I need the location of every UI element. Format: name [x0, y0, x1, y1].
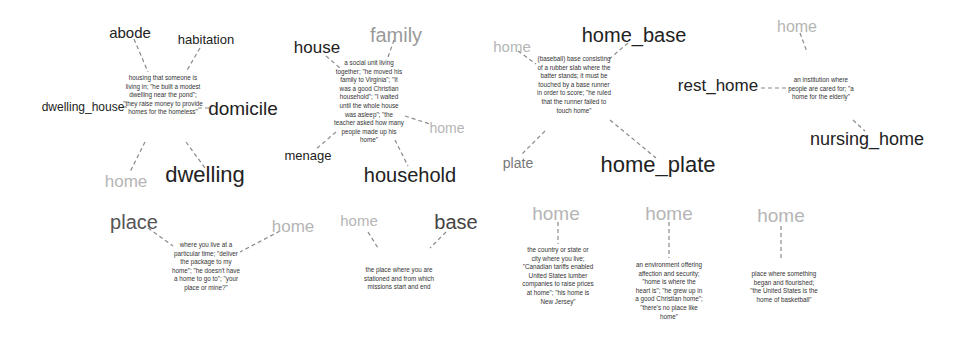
word-house[interactable]: house [294, 39, 340, 56]
gloss-base: the place where you are stationed and fr… [364, 266, 434, 292]
word-home[interactable]: home [757, 206, 805, 225]
gloss-place: where you live at a particular time; "de… [172, 241, 240, 293]
word-abode[interactable]: abode [109, 25, 151, 40]
gloss-dwelling: housing that someone is living in; "he b… [123, 74, 203, 117]
gloss-nursing-home: an institution where people are cared fo… [785, 76, 857, 102]
word-dwelling-house[interactable]: dwelling_house [42, 101, 125, 113]
word-nursing-home[interactable]: nursing_home [810, 130, 924, 148]
gloss-home-origin: place where something began and flourish… [750, 270, 818, 304]
word-home[interactable]: home [340, 213, 378, 228]
gloss-home-environment: an environment offering affection and se… [635, 261, 703, 321]
word-rest-home[interactable]: rest_home [678, 77, 758, 94]
word-home[interactable]: home [272, 218, 315, 235]
gloss-home-country: the country or state or city where you l… [522, 246, 594, 306]
word-household[interactable]: household [364, 165, 456, 185]
word-habitation[interactable]: habitation [178, 33, 234, 46]
gloss-household: a social unit living together; "he moved… [334, 59, 404, 145]
word-menage[interactable]: menage [285, 149, 332, 162]
word-home[interactable]: home [429, 121, 464, 135]
word-home[interactable]: home [777, 19, 817, 35]
word-family[interactable]: family [370, 25, 422, 45]
word-home[interactable]: home [493, 39, 531, 54]
word-home-base[interactable]: home_base [582, 25, 687, 45]
word-dwelling[interactable]: dwelling [165, 164, 245, 186]
word-home-plate[interactable]: home_plate [601, 154, 716, 176]
word-home[interactable]: home [532, 204, 580, 223]
word-home[interactable]: home [645, 204, 693, 223]
word-sense-diagram: abode habitation dwelling_house domicile… [0, 0, 970, 342]
gloss-home-plate: (baseball) base consisting of a rubber s… [536, 55, 612, 115]
word-plate[interactable]: plate [503, 156, 533, 170]
word-home[interactable]: home [105, 173, 148, 190]
word-base[interactable]: base [434, 212, 477, 232]
word-domicile[interactable]: domicile [208, 99, 278, 118]
word-place[interactable]: place [110, 212, 158, 232]
